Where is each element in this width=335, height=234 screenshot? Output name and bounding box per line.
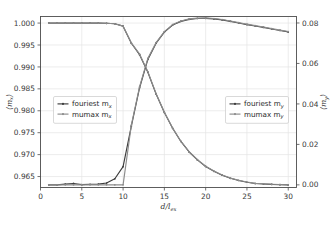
data-point [89,22,91,24]
y-left-axis-label: ⟨mx⟩ [5,94,15,110]
x-tick-label: 30 [284,192,294,201]
data-point [221,174,223,176]
data-point [56,22,58,24]
data-point [122,184,124,186]
x-tick-label: 5 [79,192,84,201]
data-point [73,184,75,186]
data-point [279,29,281,31]
data-point [287,31,289,33]
x-tick-label: 0 [38,192,43,201]
data-point [89,184,91,186]
y-left-tick-label: 0.980 [14,106,35,115]
data-point [205,165,207,167]
data-point [221,19,223,21]
data-point [188,18,190,20]
data-point [155,42,157,44]
x-tick-label: 15 [160,192,170,201]
data-point [73,22,75,24]
legend-marker-icon [62,103,64,105]
data-point [197,159,199,161]
data-point [81,184,83,186]
data-point [56,184,58,186]
data-point [147,58,149,60]
legend-marker-icon [234,113,236,115]
legend-right[interactable]: fouriest mymumax my [226,97,289,124]
data-point [238,179,240,181]
data-point [213,170,215,172]
data-point [197,17,199,19]
data-point [97,184,99,186]
data-point [64,184,66,186]
x-tick-label: 10 [118,192,128,201]
y-right-tick-label: 0.06 [302,59,319,68]
data-point [172,24,174,26]
data-point [164,111,166,113]
data-point [164,31,166,33]
data-point [254,25,256,27]
legend-label: fouriest mx [72,99,113,109]
data-point [122,166,124,168]
data-point [106,182,108,184]
y-left-tick-label: 0.995 [14,41,35,50]
data-point [246,23,248,25]
data-point [155,93,157,95]
data-point [130,124,132,126]
data-point [188,151,190,153]
data-point [271,183,273,185]
data-point [48,184,50,186]
legend-marker-icon [62,113,64,115]
data-point [180,20,182,22]
figure-canvas: 0510152025300.9650.9700.9750.9800.9850.9… [0,0,335,234]
y-left-tick-label: 0.985 [14,84,35,93]
data-point [139,53,141,55]
y-right-tick-label: 0.02 [302,140,318,149]
x-axis-label: d/lex [161,202,177,212]
y-left-tick-label: 0.965 [14,172,35,181]
data-point [130,42,132,44]
data-point [114,23,116,25]
y-left-tick-label: 0.970 [14,150,35,159]
data-point [147,71,149,73]
data-point [139,86,141,88]
data-point [122,25,124,27]
data-point [114,178,116,180]
data-point [205,17,207,19]
data-point [230,177,232,179]
y-left-tick-label: 0.990 [14,63,35,72]
data-point [246,181,248,183]
x-tick-label: 25 [242,192,252,201]
data-point [263,183,265,185]
y-right-tick-label: 0.04 [302,100,319,109]
legend-label: mumax mx [72,110,113,120]
x-tick-label: 20 [201,192,211,201]
y-left-tick-label: 1.000 [14,19,35,28]
data-point [230,20,232,22]
y-right-tick-label: 0.08 [302,19,319,28]
data-point [180,140,182,142]
legend-left[interactable]: fouriest mxmumax mx [54,97,117,124]
data-point [81,22,83,24]
data-point [106,184,108,186]
data-point [279,184,281,186]
data-point [64,22,66,24]
y-left-tick-label: 0.975 [14,128,35,137]
legend-marker-icon [234,103,236,105]
data-point [238,22,240,24]
data-point [48,22,50,24]
data-point [254,182,256,184]
data-point [287,184,289,186]
data-point [106,22,108,24]
y-right-axis-label: ⟨my⟩ [319,94,330,110]
data-point [213,18,215,20]
chart-plot: 0510152025300.9650.9700.9750.9800.9850.9… [0,0,335,234]
data-point [263,26,265,28]
data-point [97,22,99,24]
y-right-tick-label: 0.00 [302,180,319,189]
data-point [172,127,174,129]
data-point [271,28,273,30]
data-point [114,184,116,186]
